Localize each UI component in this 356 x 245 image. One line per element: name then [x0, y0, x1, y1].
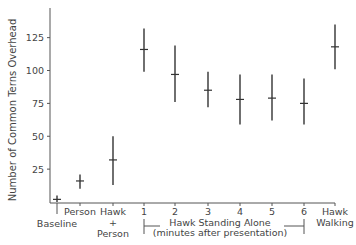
x-category-label: Baseline: [37, 218, 77, 229]
bracket-annotation-text: (minutes after presentation): [153, 227, 288, 238]
data-point: [171, 46, 179, 103]
data-point: [268, 74, 276, 120]
y-tick-label: 100: [26, 65, 44, 76]
x-label-line: Baseline: [37, 218, 77, 229]
x-category-label: 6: [301, 206, 307, 217]
x-label-line: 3: [205, 206, 211, 217]
x-category-label: Hawk+Person: [97, 206, 129, 239]
x-category-label: 1: [141, 206, 147, 217]
x-label-line: 5: [269, 206, 275, 217]
data-point: [204, 72, 212, 108]
x-label-line: 1: [141, 206, 147, 217]
x-category-label: 3: [205, 206, 211, 217]
x-label-line: Walking: [316, 217, 353, 228]
y-tick-label: 75: [32, 98, 44, 109]
chart-canvas: 255075100125Number of Common Terns Overh…: [0, 0, 356, 245]
x-category-label: HawkWalking: [316, 206, 353, 228]
data-point: [236, 74, 244, 124]
x-label-line: 2: [172, 206, 178, 217]
x-label-line: Person: [64, 206, 96, 217]
chart: 255075100125Number of Common Terns Overh…: [0, 0, 356, 245]
x-label-line: 4: [237, 206, 243, 217]
x-label-line: 6: [301, 206, 307, 217]
x-category-label: 4: [237, 206, 243, 217]
data-point: [300, 78, 308, 124]
data-point: [140, 28, 148, 71]
x-category-label: 5: [269, 206, 275, 217]
y-tick-label: 50: [32, 131, 44, 142]
x-category-label: 2: [172, 206, 178, 217]
x-label-line: Person: [97, 228, 129, 239]
y-tick-label: 125: [26, 32, 44, 43]
data-point: [76, 174, 84, 188]
y-axis-label: Number of Common Terns Overhead: [7, 19, 18, 201]
y-tick-label: 25: [32, 164, 44, 175]
x-label-line: Hawk: [322, 206, 349, 217]
data-point: [109, 136, 117, 185]
x-category-label: Person: [64, 206, 96, 217]
x-label-line: Hawk: [100, 206, 127, 217]
data-point: [331, 24, 339, 69]
x-label-line: +: [109, 217, 117, 228]
data-point: [53, 195, 61, 202]
